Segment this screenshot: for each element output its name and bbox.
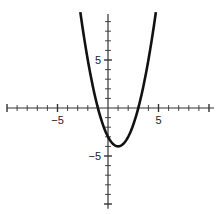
axes	[7, 14, 214, 209]
y-tick-label: 5	[95, 54, 101, 66]
y-tick-label: −5	[88, 150, 101, 162]
x-tick-label: −5	[51, 114, 64, 126]
parabola-chart: −555−5	[0, 0, 217, 214]
x-tick-label: 5	[155, 114, 161, 126]
parabola-curve	[80, 12, 156, 146]
